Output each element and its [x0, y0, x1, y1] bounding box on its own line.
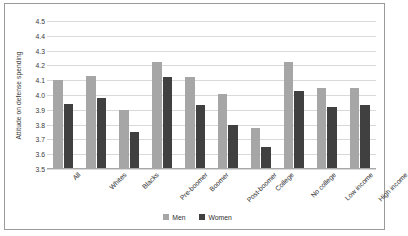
bar-women	[294, 91, 304, 169]
bar-women	[196, 105, 206, 169]
bar-men	[53, 80, 63, 169]
x-axis-category-labels: AllWhitesBlacksPre-boomerBoomerPost-boom…	[47, 169, 376, 214]
bar-women	[64, 104, 74, 169]
bar-women	[228, 125, 238, 169]
bar-group	[80, 21, 113, 169]
bar-group	[113, 21, 146, 169]
bar-women	[360, 105, 370, 169]
chart-legend: MenWomen	[5, 210, 390, 224]
bar-men	[152, 62, 162, 169]
legend-item[interactable]: Women	[199, 214, 231, 221]
y-axis-tick-label: 3.8	[36, 121, 45, 128]
y-axis-tick-label: 3.7	[36, 136, 45, 143]
bar-group	[179, 21, 212, 169]
chart-frame: Attitude on defense spending 4.54.44.34.…	[4, 3, 385, 230]
bar-group	[277, 21, 310, 169]
legend-label: Men	[172, 214, 185, 221]
x-axis-category-label: No college	[309, 171, 337, 199]
y-axis-tick-label: 4.2	[36, 62, 45, 69]
bar-men	[350, 88, 360, 169]
x-axis-category-label: High income	[377, 171, 408, 203]
y-axis-tick-label: 4.0	[36, 92, 45, 99]
bar-women	[163, 77, 173, 169]
legend-swatch-icon	[199, 214, 205, 220]
bar-group	[47, 21, 80, 169]
bar-men	[86, 76, 96, 169]
x-axis-category-label: All	[72, 171, 82, 181]
bar-women	[130, 132, 140, 169]
x-axis-category-label: Boomer	[208, 171, 230, 193]
bar-men	[218, 94, 228, 169]
legend-swatch-icon	[163, 214, 169, 220]
bar-group	[310, 21, 343, 169]
x-axis-category-label: Pre-boomer	[179, 171, 209, 201]
bar-women	[261, 147, 271, 169]
y-axis-tick-label: 3.9	[36, 106, 45, 113]
bar-series-container	[47, 21, 376, 169]
y-axis-tick-labels: 4.54.44.34.24.14.03.93.83.73.63.5	[25, 21, 45, 169]
x-axis-category-label: Blacks	[141, 171, 160, 190]
x-axis-category-label: Low income	[343, 171, 374, 202]
bar-group	[146, 21, 179, 169]
bar-women	[97, 98, 107, 169]
y-axis-title: Attitude on defense spending	[11, 30, 25, 160]
y-axis-tick-label: 4.1	[36, 77, 45, 84]
bar-group	[244, 21, 277, 169]
bar-group	[212, 21, 245, 169]
y-axis-tick-label: 3.5	[36, 166, 45, 173]
bar-men	[119, 110, 129, 169]
legend-item[interactable]: Men	[163, 214, 185, 221]
y-axis-tick-label: 3.6	[36, 151, 45, 158]
bar-men	[284, 62, 294, 169]
bar-women	[327, 107, 337, 169]
plot-area	[47, 21, 376, 169]
y-axis-title-text: Attitude on defense spending	[15, 51, 22, 139]
legend-label: Women	[208, 214, 231, 221]
x-axis-category-label: Whites	[108, 171, 128, 191]
y-axis-tick-label: 4.5	[36, 18, 45, 25]
bar-men	[185, 77, 195, 169]
y-axis-tick-label: 4.3	[36, 47, 45, 54]
bar-men	[251, 128, 261, 169]
y-axis-tick-label: 4.4	[36, 32, 45, 39]
bar-men	[317, 88, 327, 169]
bar-group	[343, 21, 376, 169]
